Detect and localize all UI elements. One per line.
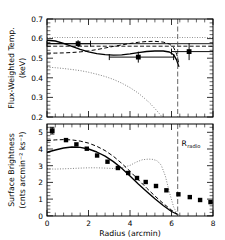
data-point [164, 188, 168, 192]
bottom-ytick-label: 3 [38, 162, 43, 171]
bottom-ylabel-line1: Surface Brightness [7, 133, 16, 207]
bottom-xtick-label: 8 [211, 219, 216, 228]
data-point [198, 198, 202, 202]
r-radio-subscript: radio [187, 143, 200, 149]
data-point [105, 160, 109, 164]
top-ylabel-line2: (keV) [18, 58, 27, 78]
plot-svg: 0.7 0.6 0.5 0.4 0.3 0.2 [0, 0, 225, 240]
bottom-ytick-label: 4 [38, 145, 43, 154]
bottom-ylabel-line2: (cnts arcmin⁻² ks⁻¹) [18, 131, 27, 208]
data-point [176, 192, 180, 196]
data-point [126, 171, 130, 175]
bottom-xtick-label: 6 [169, 219, 174, 228]
data-point [95, 153, 99, 157]
bottom-ytick-label: 0 [38, 212, 43, 221]
top-ylabel-line1: Flux-Weighted Temp. [7, 27, 16, 108]
bottom-ytick-label: 1 [38, 195, 43, 204]
errorbar-point [50, 127, 55, 134]
top-ytick-label: 0.4 [31, 74, 43, 83]
data-point [135, 176, 139, 180]
data-point [64, 138, 68, 142]
top-ytick-label: 0.3 [31, 93, 43, 102]
top-ytick-label: 0.2 [31, 113, 43, 122]
data-point [144, 180, 148, 184]
bottom-xtick-label: 4 [128, 219, 133, 228]
top-ytick-label: 0.5 [31, 54, 43, 63]
top-ytick-label: 0.6 [31, 34, 43, 43]
data-point [74, 142, 78, 146]
bottom-xlabel: Radius (arcmin) [99, 229, 161, 238]
bottom-ytick-label: 5 [38, 128, 43, 137]
bottom-ytick-label: 2 [38, 178, 43, 187]
figure-container: 0.7 0.6 0.5 0.4 0.3 0.2 [0, 0, 225, 240]
data-point [116, 166, 120, 170]
data-point [154, 184, 158, 188]
data-point [188, 195, 192, 199]
bottom-xtick-label: 0 [45, 219, 50, 228]
data-point [85, 147, 89, 151]
bottom-xtick-label: 2 [86, 219, 91, 228]
top-ytick-label: 0.7 [31, 15, 43, 24]
